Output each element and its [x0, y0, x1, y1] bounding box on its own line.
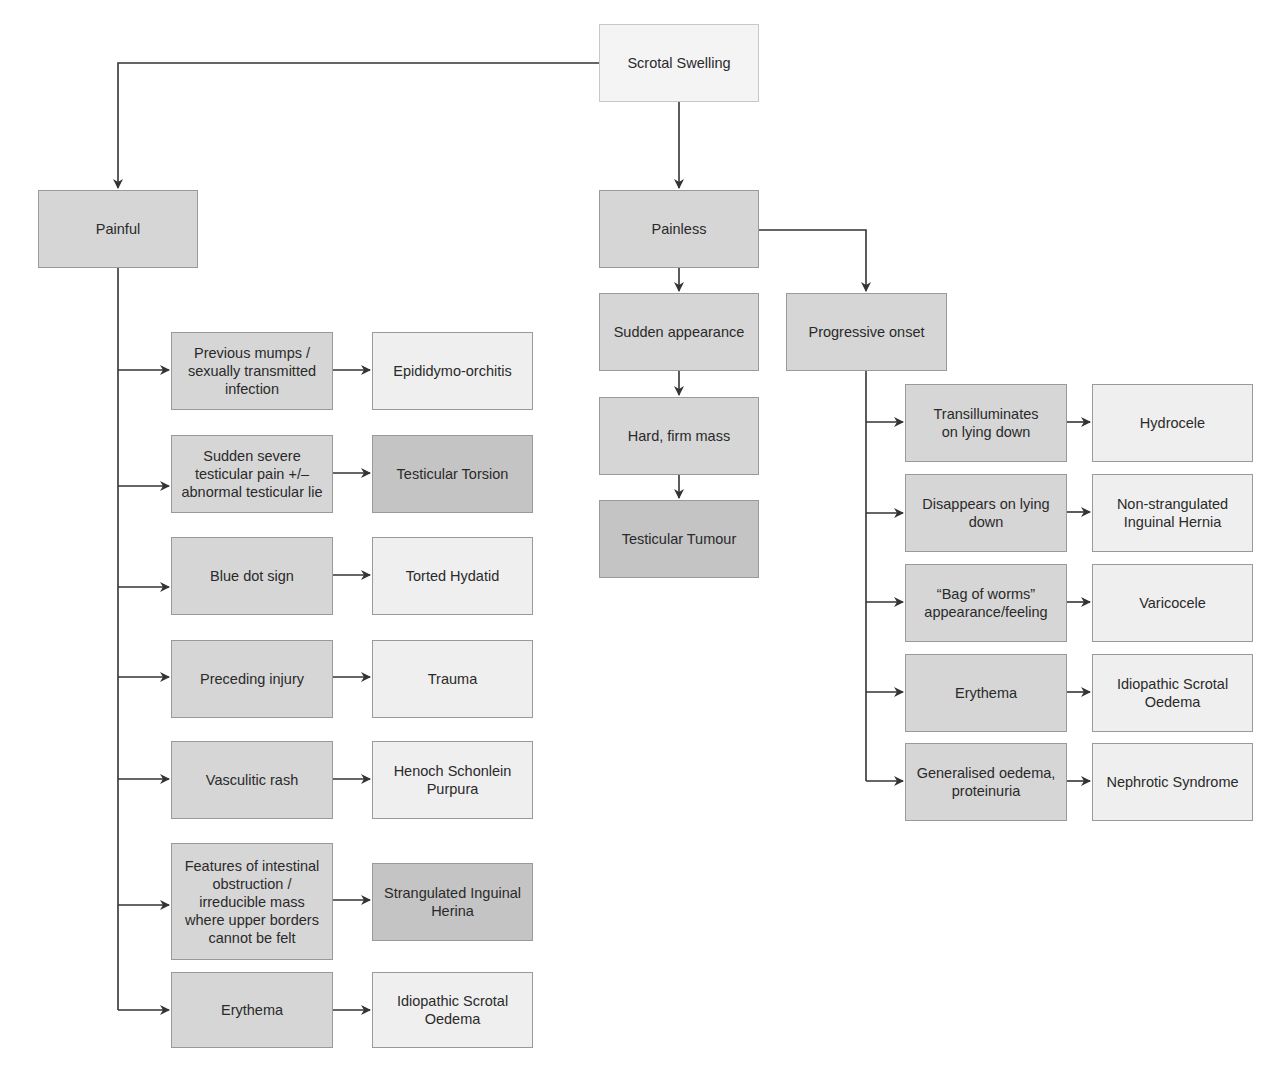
- node-hard-firm-mass: Hard, firm mass: [599, 397, 759, 475]
- outcome-torted-hydatid: Torted Hydatid: [372, 537, 533, 615]
- node-sudden-appearance: Sudden appearance: [599, 293, 759, 371]
- outcome-testicular-torsion: Testicular Torsion: [372, 435, 533, 513]
- outcome-idiopathic-scrotal-oedema-painful: Idiopathic Scrotal Oedema: [372, 972, 533, 1048]
- criterion-disappears-lying-down: Disappears on lying down: [905, 474, 1067, 552]
- criterion-sudden-severe-pain: Sudden severe testicular pain +/– abnorm…: [171, 435, 333, 513]
- outcome-nephrotic-syndrome: Nephrotic Syndrome: [1092, 743, 1253, 821]
- node-testicular-tumour: Testicular Tumour: [599, 500, 759, 578]
- node-scrotal-swelling: Scrotal Swelling: [599, 24, 759, 102]
- criterion-previous-mumps: Previous mumps / sexually transmitted in…: [171, 332, 333, 410]
- node-painful: Painful: [38, 190, 198, 268]
- criterion-intestinal-obstruction: Features of intestinal obstruction / irr…: [171, 843, 333, 960]
- criterion-bag-of-worms: “Bag of worms” appearance/feeling: [905, 564, 1067, 642]
- criterion-erythema-painful: Erythema: [171, 972, 333, 1048]
- outcome-henoch-schonlein-purpura: Henoch Schonlein Purpura: [372, 741, 533, 819]
- node-painless: Painless: [599, 190, 759, 268]
- criterion-transilluminates: Transilluminates on lying down: [905, 384, 1067, 462]
- outcome-epididymo-orchitis: Epididymo-orchitis: [372, 332, 533, 410]
- criterion-vasculitic-rash: Vasculitic rash: [171, 741, 333, 819]
- outcome-non-strangulated-hernia: Non-strangulated Inguinal Hernia: [1092, 474, 1253, 552]
- criterion-blue-dot-sign: Blue dot sign: [171, 537, 333, 615]
- node-progressive-onset: Progressive onset: [786, 293, 947, 371]
- outcome-idiopathic-scrotal-oedema-painless: Idiopathic Scrotal Oedema: [1092, 654, 1253, 732]
- scrotal-swelling-flowchart: Scrotal Swelling Painful Painless Sudden…: [0, 0, 1281, 1075]
- criterion-preceding-injury: Preceding injury: [171, 640, 333, 718]
- outcome-varicocele: Varicocele: [1092, 564, 1253, 642]
- outcome-strangulated-inguinal-hernia: Strangulated Inguinal Herina: [372, 863, 533, 941]
- outcome-hydrocele: Hydrocele: [1092, 384, 1253, 462]
- criterion-generalised-oedema: Generalised oedema, proteinuria: [905, 743, 1067, 821]
- outcome-trauma: Trauma: [372, 640, 533, 718]
- criterion-erythema-painless: Erythema: [905, 654, 1067, 732]
